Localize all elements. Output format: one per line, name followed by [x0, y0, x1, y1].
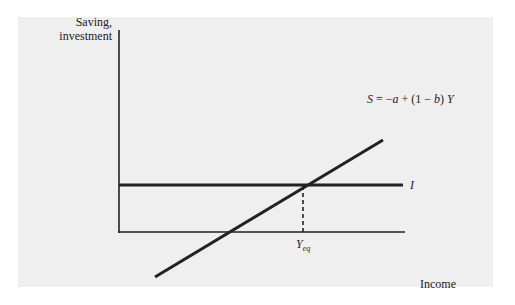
equilibrium-income-label: Yeq [296, 237, 310, 256]
y-axis-label: Saving, investment [12, 15, 112, 43]
x-axis-label: Income [420, 277, 456, 291]
y-axis-label-line1: Saving, [12, 15, 112, 29]
y-axis-label-line2: investment [12, 29, 112, 43]
investment-line-label: I [410, 178, 414, 192]
yeq-subscript: eq [303, 244, 311, 253]
eq-y: Y [447, 92, 454, 106]
saving-line [155, 140, 383, 277]
yeq-main: Y [296, 237, 303, 251]
eq-part2: + (1 − [399, 92, 435, 106]
saving-function-label: S = −a + (1 − b) Y [367, 92, 454, 106]
saving-investment-diagram [0, 0, 515, 305]
eq-part1: = − [373, 92, 393, 106]
